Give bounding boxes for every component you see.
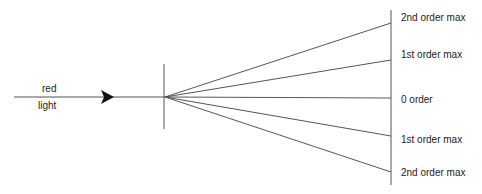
label-1st-order-max-bottom: 1st order max <box>401 134 462 146</box>
label-1st-order-max-top: 1st order max <box>401 49 462 61</box>
ray-1st-order-top <box>165 60 391 97</box>
ray-1st-order-bottom <box>165 97 391 136</box>
incident-label-red: red <box>42 83 56 95</box>
ray-2nd-order-top <box>165 23 391 97</box>
ray-0-order <box>165 97 391 98</box>
label-2nd-order-max-bottom: 2nd order max <box>401 167 465 179</box>
label-2nd-order-max-top: 2nd order max <box>401 12 465 24</box>
label-0-order: 0 order <box>401 94 433 106</box>
ray-2nd-order-bottom <box>165 97 391 172</box>
incident-label-light: light <box>38 100 56 112</box>
